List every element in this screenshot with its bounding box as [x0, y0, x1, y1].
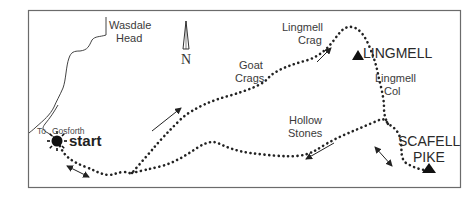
route-map: N Wasdale Head To Gosforth start Goat Cr…: [0, 0, 469, 200]
lingmell-crag-label-2: Crag: [298, 34, 322, 46]
hollow-stones-label: Hollow: [289, 114, 322, 126]
start-label: start: [69, 132, 102, 149]
scafell-pike-label: SCAFELL: [398, 133, 460, 149]
lingmell-col-label-2: Col: [384, 85, 401, 97]
lingmell-col-label: Lingmell: [375, 72, 416, 84]
goat-crags-label: Goat: [239, 59, 263, 71]
lingmell-crag-label: Lingmell: [282, 21, 323, 33]
wasdale-head-label-2: Head: [116, 32, 142, 44]
lingmell-peak-label: LINGMELL: [363, 45, 432, 61]
to-gosforth-label: To: [37, 126, 46, 136]
goat-crags-label-2: Crags: [235, 72, 265, 84]
wasdale-head-label: Wasdale: [109, 19, 151, 31]
hollow-stones-label-2: Stones: [288, 127, 323, 139]
scafell-pike-label-2: PIKE: [413, 149, 445, 165]
map-frame: [29, 11, 461, 188]
north-label: N: [181, 52, 191, 67]
